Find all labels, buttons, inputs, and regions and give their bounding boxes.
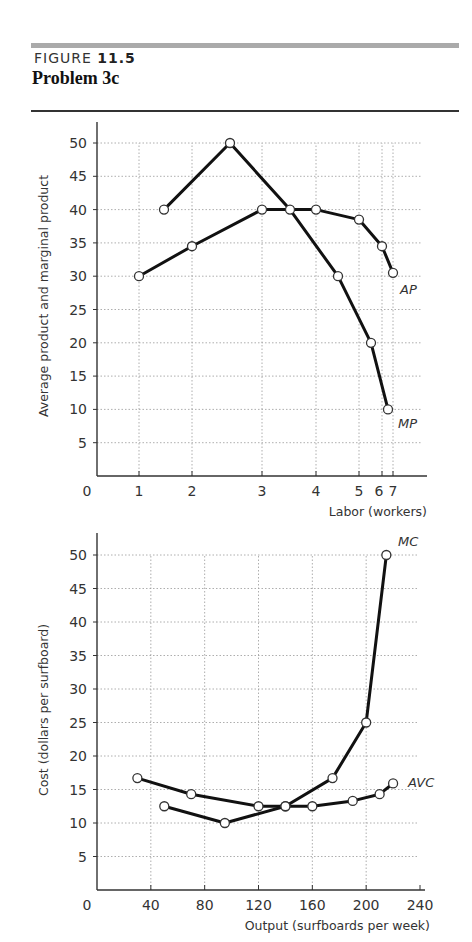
cost-chart: 510152025303540455040801201602002400Outp… bbox=[0, 0, 472, 942]
avc-point bbox=[187, 790, 196, 799]
mc-point bbox=[220, 819, 229, 828]
mc-point bbox=[281, 802, 290, 811]
y-tick-label: 25 bbox=[69, 715, 87, 731]
y-tick-label: 40 bbox=[69, 614, 87, 630]
x-tick-label: 200 bbox=[353, 897, 380, 913]
mc-point bbox=[362, 718, 371, 727]
origin-label: 0 bbox=[83, 897, 92, 913]
avc-point bbox=[133, 774, 142, 783]
mc-point bbox=[328, 774, 337, 783]
mc-point bbox=[382, 551, 391, 560]
x-tick-label: 240 bbox=[407, 897, 434, 913]
mc-point bbox=[160, 802, 169, 811]
avc-point bbox=[348, 796, 357, 805]
y-tick-label: 5 bbox=[78, 849, 87, 865]
y-tick-label: 10 bbox=[69, 815, 87, 831]
x-tick-label: 40 bbox=[142, 897, 160, 913]
avc-label: AVC bbox=[407, 775, 435, 790]
x-tick-label: 80 bbox=[196, 897, 214, 913]
y-axis-label: Cost (dollars per surfboard) bbox=[36, 624, 51, 796]
y-tick-label: 50 bbox=[69, 547, 87, 563]
avc-point bbox=[308, 802, 317, 811]
y-tick-label: 30 bbox=[69, 681, 87, 697]
x-tick-label: 160 bbox=[299, 897, 326, 913]
avc-point bbox=[254, 802, 263, 811]
y-tick-label: 20 bbox=[69, 748, 87, 764]
mc-label: MC bbox=[398, 534, 419, 549]
avc-point bbox=[389, 779, 398, 788]
y-tick-label: 35 bbox=[69, 648, 87, 664]
x-axis-label: Output (surfboards per week) bbox=[245, 918, 430, 933]
avc-point bbox=[375, 790, 384, 799]
y-tick-label: 15 bbox=[69, 782, 87, 798]
y-tick-label: 45 bbox=[69, 581, 87, 597]
x-tick-label: 120 bbox=[245, 897, 272, 913]
